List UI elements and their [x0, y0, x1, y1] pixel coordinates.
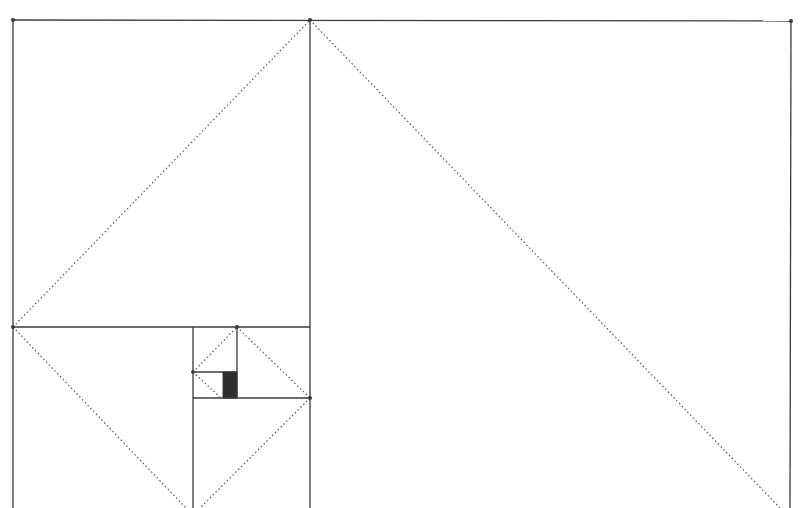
shaded-center-rect	[223, 372, 237, 398]
vertex-dot	[191, 370, 195, 374]
top-edge-line	[13, 20, 792, 21]
diag-e-dotted-line	[193, 327, 237, 372]
right-edge-line	[790, 21, 791, 508]
diag-a-dotted-line	[13, 20, 310, 327]
vertex-dot	[308, 396, 312, 400]
diag-c-dotted-line	[13, 327, 186, 508]
dotted-diagonals	[13, 20, 780, 508]
vertex-dot	[308, 18, 312, 22]
vertex-dot	[235, 325, 239, 329]
diag-f-dotted-line	[237, 327, 310, 398]
vertex-dot	[11, 325, 15, 329]
solid-lines	[13, 20, 792, 508]
diag-d-dotted-line	[200, 398, 310, 508]
diag-b-dotted-line	[310, 20, 780, 508]
vertex-dot	[11, 18, 15, 22]
vertex-dots	[11, 18, 793, 400]
golden-rectangle-drawing	[0, 0, 802, 508]
diag-g-dotted-line	[193, 372, 221, 398]
vertex-dot	[789, 19, 793, 23]
